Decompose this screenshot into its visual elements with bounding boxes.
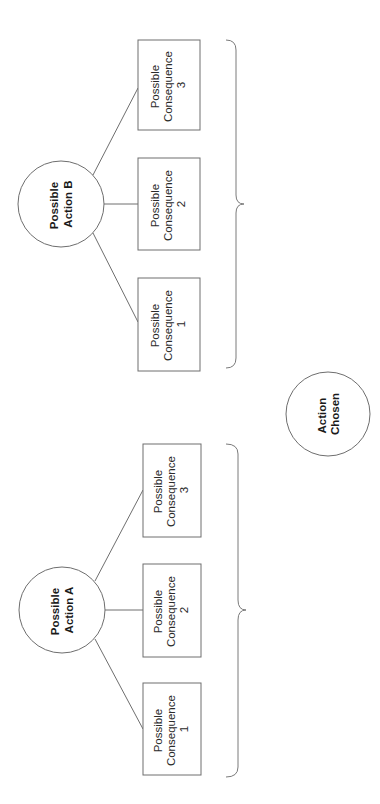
action-a-brace <box>226 444 246 777</box>
action-a-group: Possible Action A Possible Consequence 3… <box>19 444 246 777</box>
label-line3: 1 <box>178 726 190 732</box>
label-line3: 3 <box>175 82 187 88</box>
label-line3: 3 <box>178 487 190 493</box>
action-b-label-line1: Possible <box>48 182 60 229</box>
edge-b-to-consequence-3 <box>93 88 138 175</box>
action-chosen-label-line2: Chosen <box>329 393 341 435</box>
action-chosen-group: Action Chosen <box>286 372 370 456</box>
action-b-node <box>18 161 104 247</box>
action-b-group: Possible Action B Possible Consequence 3… <box>18 40 244 371</box>
label-line1: Possible <box>152 470 164 513</box>
action-chosen-label-line1: Action <box>316 398 328 434</box>
edge-a-to-consequence-3 <box>95 490 143 581</box>
label-line2: Consequence <box>162 290 174 361</box>
action-chosen-label: Action Chosen <box>316 393 341 435</box>
action-a-node <box>19 567 105 653</box>
label-line3: 1 <box>175 321 187 327</box>
action-b-brace <box>226 40 244 368</box>
decision-diagram: Possible Action B Possible Consequence 3… <box>0 0 380 804</box>
action-b-label-line2: Action B <box>62 180 74 227</box>
label-line1: Possible <box>149 304 161 347</box>
label-line3: 2 <box>175 201 187 207</box>
label-line2: Consequence <box>165 576 177 647</box>
label-line2: Consequence <box>165 695 177 766</box>
label-line2: Consequence <box>162 170 174 241</box>
label-line1: Possible <box>149 65 161 108</box>
label-line1: Possible <box>149 184 161 227</box>
label-line2: Consequence <box>162 51 174 122</box>
label-line2: Consequence <box>165 456 177 527</box>
label-line1: Possible <box>152 590 164 633</box>
label-line1: Possible <box>152 709 164 752</box>
edge-a-to-consequence-1 <box>95 639 143 729</box>
action-a-label-line1: Possible <box>49 588 61 635</box>
action-chosen-node <box>286 372 370 456</box>
action-a-label-line2: Action A <box>63 587 75 634</box>
edge-b-to-consequence-1 <box>93 233 138 322</box>
label-line3: 2 <box>178 607 190 613</box>
